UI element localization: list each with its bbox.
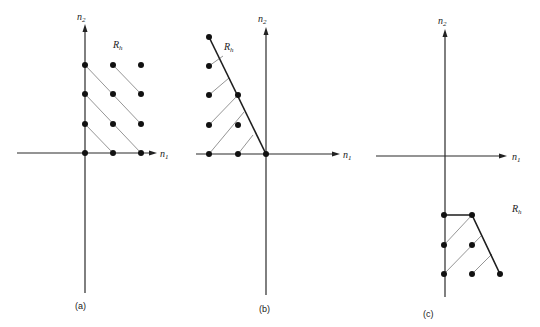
panel-c-y-label: n2 bbox=[438, 15, 447, 28]
panel-a-y-arrow-icon bbox=[83, 24, 88, 32]
panel-b-y-arrow-icon bbox=[264, 27, 269, 35]
panel-a-region-label: Rh bbox=[112, 39, 123, 52]
panel-a-x-label: n1 bbox=[160, 148, 169, 161]
panel-c-x-arrow-icon bbox=[499, 154, 507, 159]
panel-a-x-arrow-icon bbox=[149, 151, 157, 156]
panel-b-hatching bbox=[209, 56, 253, 154]
panel-b-x-label: n1 bbox=[343, 149, 352, 162]
panel-a: n2 n1 Rh (a) bbox=[17, 11, 169, 311]
panel-c-x-label: n1 bbox=[512, 151, 521, 164]
panel-a-support-points bbox=[82, 62, 144, 156]
panel-c-region-label: Rh bbox=[511, 203, 522, 216]
panel-c-caption: (c) bbox=[423, 309, 434, 319]
panel-a-caption: (a) bbox=[75, 301, 86, 311]
panel-b-caption: (b) bbox=[259, 304, 270, 314]
panel-a-y-label: n2 bbox=[77, 11, 86, 24]
panel-c-hatching bbox=[444, 215, 492, 274]
panel-c-y-arrow-icon bbox=[443, 29, 448, 37]
panel-b-support-points bbox=[206, 34, 269, 157]
panel-c: n2 n1 Rh (c) bbox=[376, 15, 522, 319]
panel-b: n2 n1 Rh (b) bbox=[196, 13, 352, 314]
panel-b-region-label: Rh bbox=[223, 41, 234, 54]
panel-b-y-label: n2 bbox=[258, 13, 267, 26]
panel-a-hatching bbox=[85, 65, 141, 153]
panel-b-x-arrow-icon bbox=[332, 152, 340, 157]
figure-canvas: n2 n1 Rh (a) bbox=[0, 0, 540, 327]
